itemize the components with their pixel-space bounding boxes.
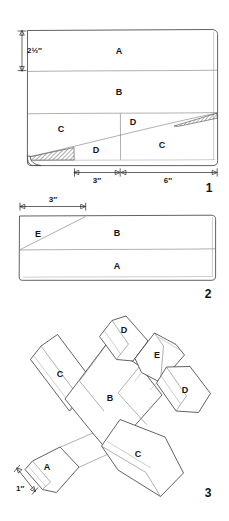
fig1-board-outline [27,30,217,166]
fig1-dimension-left-text: 3″ [93,176,101,185]
fig1-label-B: B [116,87,123,97]
fig1-dimension-height-text: 2½″ [27,46,42,55]
fig2-dimension-top: 3″ [20,195,86,211]
fig1-label-D-upper: D [130,117,137,127]
fig3-nose-block [25,447,79,493]
fig2-dimension-top-text: 3″ [49,195,57,204]
fig3-label-C-lower: C [135,449,142,459]
fig3-label-C-upper: C [57,369,64,379]
diagram-sheet: A B C D D C 2½″ 3″ 6″ [0,0,229,521]
fig3-label-E: E [154,350,160,360]
fig3-label-D-top: D [121,325,128,335]
fig1-dimension-left: 3″ [74,168,120,185]
fig1-label-A: A [116,46,123,56]
fig1-dimension-right: 6″ [121,168,217,185]
fig2-number: 2 [205,287,212,301]
fig3-label-D-right: D [182,385,189,395]
figure-2-side-elevation: E B A 3″ 2 [19,195,215,301]
fig3-wing-lower-right [102,420,184,497]
fig3-label-A: A [44,462,51,472]
fig1-label-D-lower: D [93,145,100,155]
figure-1-layout-plan: A B C D D C 2½″ 3″ 6″ [18,30,218,196]
fig1-label-C-right: C [159,140,166,150]
fig3-label-B: B [107,393,114,403]
fig3-dimension-nose-text: 1″ [16,484,24,493]
fig1-dimension-right-text: 6″ [164,176,172,185]
fig1-label-C-left: C [58,124,65,134]
figure-3-assembled-isometric: D E D C B C A 1″ 3 [14,316,212,500]
fig2-label-E: E [35,229,41,239]
fig1-number: 1 [206,181,213,195]
fig2-label-A: A [114,261,121,271]
fig3-number: 3 [205,486,212,500]
fig2-label-B: B [114,228,121,238]
